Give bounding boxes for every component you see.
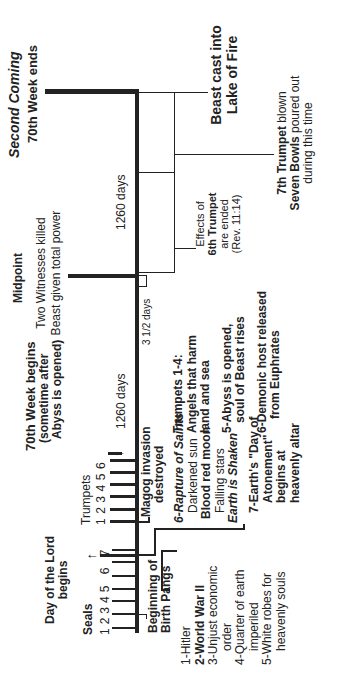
dol-connector <box>139 554 155 556</box>
trumpet-tick-5 <box>110 471 136 474</box>
dol-bracket-end <box>243 524 245 530</box>
birth-pangs-label: Beginning ofBirth Pangs <box>147 560 173 633</box>
second-coming-title: Second Coming <box>8 51 21 158</box>
dol-connector-h <box>154 529 156 556</box>
short-bracket-end <box>139 275 147 276</box>
second-coming-marker <box>45 89 139 94</box>
arrow-up-icon: ↑ <box>112 450 125 457</box>
seal-tick-1 <box>112 627 136 629</box>
midpoint-note-1: Two Witnesses killed <box>35 203 48 343</box>
seals-label: Seals <box>82 604 95 635</box>
birth-pangs-connector-h <box>161 551 163 591</box>
duration-first-half: 1260 days <box>115 374 128 429</box>
trumpet-tick-6 <box>110 459 136 462</box>
week-begins-title: 70th Week begins <box>24 341 37 451</box>
short-bracket-h <box>146 275 147 287</box>
birth-pangs-connector <box>162 589 170 591</box>
seal-tick-7 <box>112 549 136 551</box>
trumpet-tick-4 <box>110 483 136 486</box>
seal-tick-3 <box>112 600 136 602</box>
second-coming-drop <box>139 92 175 93</box>
magog-connector-h <box>148 517 150 523</box>
duration-second-half: 1260 days <box>115 175 128 230</box>
post-midpoint-branch <box>139 272 175 273</box>
duration-short: 3 1/2 days <box>140 299 153 345</box>
trumpet-numbers: 123456 <box>95 458 108 525</box>
midpoint-note-2: Beast given total power <box>50 203 63 343</box>
timeline-diagram: 12345 6 7 Seals Day of the Lordbegins → … <box>0 0 354 683</box>
effects-drop <box>174 248 196 249</box>
beast-drop <box>174 92 208 93</box>
dol-bracket <box>154 528 244 530</box>
trumpet-tick-1 <box>110 520 136 523</box>
sixth-trumpet-end: Effects of 6th Trumpet are ended (Rev. 1… <box>194 179 242 269</box>
arrow-up-icon: → <box>86 552 99 565</box>
day-of-lord-label: Day of the Lordbegins <box>44 525 70 635</box>
beast-lake-of-fire: Beast cast intoLake of Fire <box>208 15 240 135</box>
magog-label: Magog invasiondestroyed <box>140 426 166 517</box>
seventh-trumpet-drop <box>174 154 274 155</box>
seal-tick-2 <box>112 613 136 615</box>
week-ends-label: 70th Week ends <box>26 45 39 143</box>
midpoint-marker <box>68 274 136 278</box>
trumpet-tick-2 <box>110 508 136 511</box>
seal-tick-6 <box>112 561 136 563</box>
seal-tick-5 <box>112 575 136 577</box>
post-midpoint-line <box>174 92 175 273</box>
sixth-trumpet-end-line <box>139 172 175 173</box>
seventh-trumpet-label: 7th Trumpet blown Seven Bowls poured out… <box>276 73 315 213</box>
seal-numbers: 12345 6 7 <box>99 546 112 636</box>
trumpet-events: Trumpets 1-4: Angels that harm land and … <box>172 291 283 433</box>
trumpet-tick-3 <box>110 495 136 498</box>
week-begins-note-2: Abyss is opened) <box>51 340 64 439</box>
seal-tick-4 <box>112 588 136 590</box>
seal-events-list: 1-Hitler 2-World War II 3-Unjust economi… <box>180 566 288 665</box>
trumpets-label: Trumpets <box>80 475 93 525</box>
midpoint-title: Midpoint <box>12 223 25 333</box>
ww2-connector <box>161 550 177 552</box>
